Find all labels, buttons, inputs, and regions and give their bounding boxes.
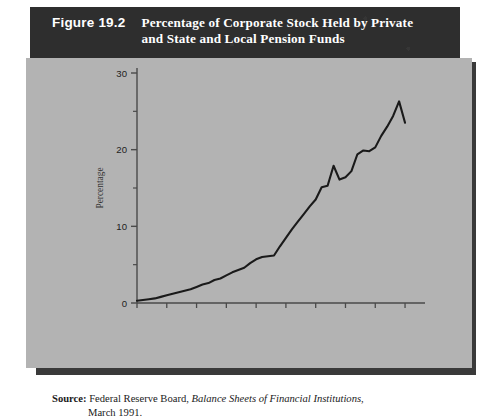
svg-text:20: 20 (116, 144, 127, 155)
svg-text:1985: 1985 (365, 311, 386, 314)
svg-text:1970: 1970 (275, 311, 296, 314)
source-date: March 1991. (52, 406, 472, 419)
svg-text:1950: 1950 (156, 311, 177, 314)
line-chart: 0102030194519501955196019651970197519801… (26, 58, 472, 314)
source-publisher: Federal Reserve Board, (89, 393, 189, 404)
figure-title-line-1: Percentage of Corporate Stock Held by Pr… (141, 15, 413, 31)
svg-text:1945: 1945 (126, 311, 147, 314)
figure-title-line-2: and State and Local Pension Funds (141, 31, 413, 47)
svg-text:1955: 1955 (186, 311, 207, 314)
svg-text:1980: 1980 (335, 311, 356, 314)
figure-title-banner: Figure 19.2 Percentage of Corporate Stoc… (30, 7, 460, 59)
source-label: Source: (52, 393, 87, 404)
svg-text:30: 30 (116, 68, 127, 79)
title-row: Figure 19.2 Percentage of Corporate Stoc… (52, 15, 450, 46)
svg-text:1990: 1990 (394, 311, 415, 314)
source-note: Source: Federal Reserve Board, Balance S… (52, 392, 472, 419)
svg-text:0: 0 (122, 298, 127, 309)
svg-text:1975: 1975 (305, 311, 326, 314)
figure-panel: 0102030194519501955196019651970197519801… (26, 58, 472, 368)
figure-title: Percentage of Corporate Stock Held by Pr… (141, 15, 413, 46)
figure-number: Figure 19.2 (52, 15, 125, 30)
svg-text:1960: 1960 (216, 311, 237, 314)
svg-text:10: 10 (116, 221, 127, 232)
plot-area: 0102030194519501955196019651970197519801… (26, 58, 472, 314)
svg-text:1965: 1965 (245, 311, 266, 314)
svg-text:Percentage: Percentage (95, 167, 105, 208)
source-comma: , (361, 393, 364, 404)
source-work-title: Balance Sheets of Financial Institutions (192, 393, 361, 404)
